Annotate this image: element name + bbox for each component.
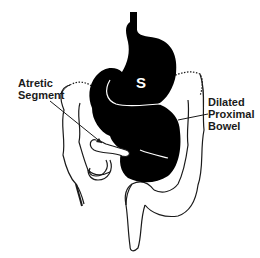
dilated-line-2: Proximal [208,108,254,120]
dilated-proximal-bowel [89,12,180,182]
stomach-label: S [136,74,146,91]
dilated-line-1: Dilated [208,96,254,108]
dilated-line-3: Bowel [208,120,254,132]
dilated-proximal-bowel-label: Dilated Proximal Bowel [208,96,254,132]
atretic-line-2: Segment [18,89,64,101]
atretic-segment-label: Atretic Segment [18,77,64,101]
atretic-line-1: Atretic [18,77,64,89]
